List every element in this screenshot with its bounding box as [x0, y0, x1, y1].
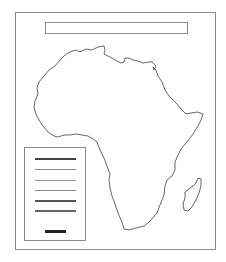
legend-line-2 [35, 169, 76, 170]
legend-line-4 [35, 190, 76, 191]
legend-line-5 [35, 200, 76, 202]
legend-line-6 [35, 210, 76, 212]
legend-box [24, 147, 86, 241]
legend-scale-bar [45, 230, 66, 233]
legend-line-3 [35, 180, 76, 181]
legend-line-1 [35, 158, 76, 160]
madagascar-outline [183, 178, 201, 211]
